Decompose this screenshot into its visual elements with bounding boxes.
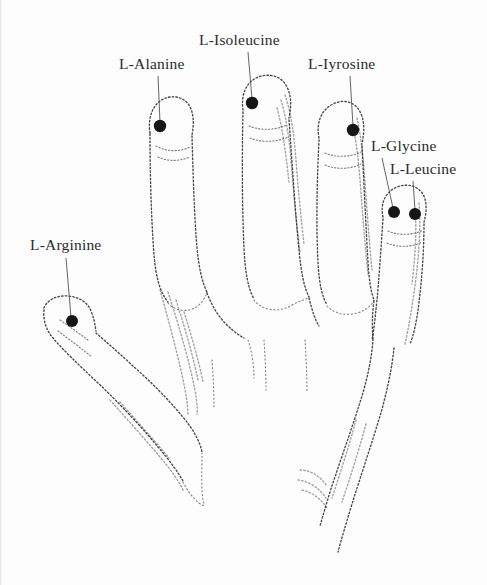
label-alanine: L-Alanine (119, 55, 185, 73)
leader-iyrosine (350, 76, 353, 126)
point-alanine (154, 120, 166, 132)
leader-leucine (413, 181, 415, 210)
label-arginine: L-Arginine (30, 236, 101, 254)
palm-shading-left (160, 290, 203, 414)
little-finger-shading (405, 203, 420, 344)
point-arginine (66, 315, 78, 327)
leader-isoleucine (248, 52, 252, 99)
amino-acid-points (66, 97, 421, 327)
label-glycine: L-Glycine (371, 137, 437, 155)
hand-diagram-figure: L-Isoleucine L-Alanine L-Iyrosine L-Glyc… (0, 0, 487, 585)
middle-finger-shading (277, 95, 304, 252)
ring-finger-shading (353, 118, 372, 274)
scan-edge-artifact (0, 0, 3, 585)
leader-alanine (158, 76, 160, 122)
little-finger-outline (372, 185, 426, 344)
thumb-shading (110, 400, 184, 492)
point-glycine (388, 206, 400, 218)
hand-line-art (0, 0, 487, 585)
thumb-outline (44, 296, 204, 506)
leader-lines (66, 52, 415, 317)
label-iyrosine: L-Iyrosine (308, 55, 375, 73)
leader-arginine (66, 258, 71, 317)
point-iyrosine (347, 124, 359, 136)
point-leucine (409, 208, 421, 220)
palm-shading-right (298, 420, 366, 508)
point-isoleucine (246, 97, 258, 109)
ring-finger-outline (317, 101, 374, 314)
index-finger-outline (149, 97, 207, 311)
label-isoleucine: L-Isoleucine (199, 31, 280, 49)
label-leucine: L-Leucine (390, 160, 456, 178)
palm-outline (160, 290, 394, 552)
middle-finger-outline (242, 75, 309, 310)
